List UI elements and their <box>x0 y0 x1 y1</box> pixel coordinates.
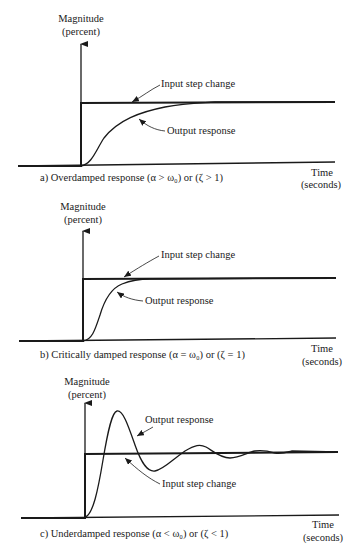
output-response-label: Output response <box>145 414 214 425</box>
output-label-pointer <box>139 119 165 131</box>
panel-caption: c) Underdamped response (α < ω₀) or (ζ <… <box>40 528 229 540</box>
panel-overdamped: Magnitude (percent) Input step change Ou… <box>18 13 342 191</box>
input-step-label: Input step change <box>162 478 236 489</box>
y-axis-label: Magnitude <box>64 376 110 387</box>
output-response-label: Output response <box>167 125 236 136</box>
output-response-curve <box>85 411 338 517</box>
step-response-diagram: Magnitude (percent) Input step change Ou… <box>0 0 354 558</box>
panel-caption: b) Critically damped response (α = ω₀) o… <box>40 349 245 361</box>
output-label-pointer <box>137 427 153 436</box>
output-label-pointer <box>117 292 143 301</box>
panel-critically-damped: Magnitude (percent) Input step change Ou… <box>19 201 343 368</box>
input-label-pointer <box>124 256 159 277</box>
panel-caption: a) Overdamped response (α > ω₀) or (ζ > … <box>40 172 223 184</box>
x-axis-label-unit: (seconds) <box>303 532 344 544</box>
y-axis-label: Magnitude <box>58 13 104 24</box>
output-response-curve <box>83 278 336 341</box>
x-axis-label-unit: (seconds) <box>302 356 343 368</box>
input-step-label: Input step change <box>161 249 235 260</box>
input-step-label: Input step change <box>161 78 235 89</box>
x-axis-label: Time <box>311 343 333 354</box>
y-axis-label: Magnitude <box>60 201 106 212</box>
y-axis-label-unit: (percent) <box>68 389 106 401</box>
y-axis-label-unit: (percent) <box>62 26 100 38</box>
output-response-label: Output response <box>145 295 214 306</box>
x-axis-label-unit: (seconds) <box>301 179 342 191</box>
y-axis-label-unit: (percent) <box>64 214 102 226</box>
x-axis-label: Time <box>311 167 333 178</box>
x-axis-label: Time <box>312 519 334 530</box>
input-step-line <box>19 278 336 341</box>
panel-underdamped: Magnitude (percent) Output response Inpu… <box>21 376 344 544</box>
input-label-pointer <box>132 85 160 102</box>
